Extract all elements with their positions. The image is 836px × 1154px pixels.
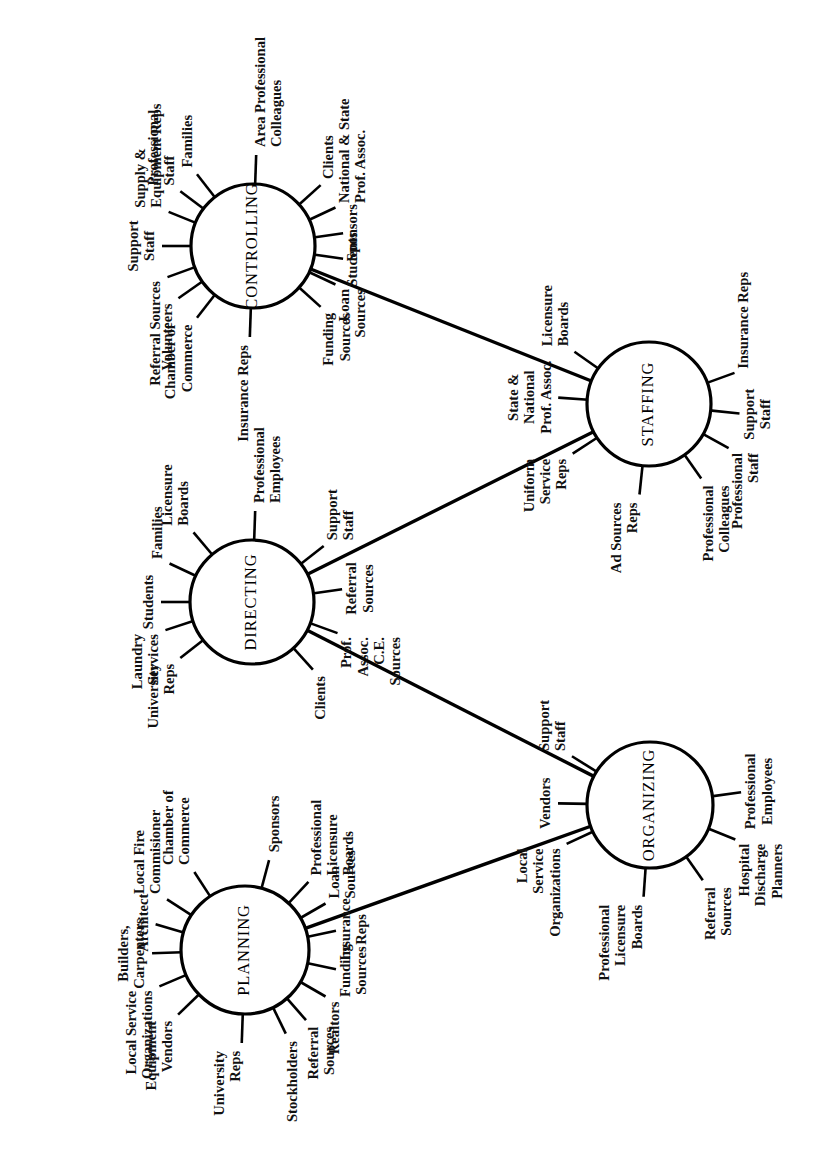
spoke-label-staffing-1: State &NationalProf. Assoc. [505, 361, 553, 434]
spoke-label-planning-9: Realtors [326, 1001, 342, 1054]
spoke-line-planning-8 [286, 998, 306, 1021]
spoke-label-controlling-3: SupportStaff [125, 220, 157, 271]
node-circle-layer [181, 184, 713, 1014]
spoke-label-staffing-4: ProfessionalColleagues [700, 485, 732, 561]
spoke-label-line: Reps [553, 459, 569, 490]
spoke-label-line: Professional [308, 800, 324, 876]
spoke-line-planning-14 [261, 860, 269, 889]
spoke-line-planning-11 [307, 931, 336, 937]
spoke-label-line: Planners [769, 843, 785, 898]
spoke-label-line: Commisioner [147, 809, 163, 894]
spoke-label-line: Sources [352, 289, 368, 338]
spoke-label-directing-9: ProfessionalEmployees [251, 427, 283, 503]
spoke-label-directing-4: UniversityReps [145, 663, 177, 729]
spoke-line-controlling-12 [308, 208, 335, 221]
spoke-label-line: Boards [555, 301, 571, 346]
spoke-label-line: Chamber of [162, 324, 178, 399]
spoke-label-line: Professional [596, 905, 612, 981]
node-label-organizing: ORGANIZING [639, 749, 658, 862]
spoke-line-controlling-5 [178, 281, 203, 298]
spoke-label-line: National [521, 370, 537, 424]
spoke-line-controlling-2 [169, 212, 197, 223]
spoke-line-directing-5 [293, 647, 313, 669]
spoke-label-planning-0: Chamber ofCommerce [160, 790, 192, 865]
spoke-label-directing-1: Families [149, 506, 165, 559]
spoke-label-line: Colleagues [268, 79, 284, 147]
spoke-label-line: Families [149, 506, 165, 559]
spoke-label-line: National & State [336, 98, 352, 203]
spoke-label-line: Boards [629, 904, 645, 949]
spoke-label-controlling-11: Sponsors [344, 204, 360, 261]
diagram-page: FamiliesProfessionalStaffSupply &Equipme… [0, 0, 836, 1154]
spoke-line-organizing-5 [707, 828, 735, 839]
spoke-label-line: Sponsors [344, 204, 360, 261]
spoke-label-line: Referral [305, 1027, 321, 1080]
spoke-line-controlling-11 [313, 233, 343, 237]
node-label-staffing: STAFFING [638, 362, 657, 447]
spoke-label-line: Laundry [129, 633, 145, 689]
spoke-label-line: University [211, 1050, 227, 1116]
spoke-label-staffing-0: LicensureBoards [539, 284, 571, 346]
spoke-label-line: Ad Sources [608, 502, 624, 573]
spoke-label-line: Service [537, 458, 553, 504]
spoke-label-line: Sources [387, 637, 403, 686]
spoke-label-line: Boards [175, 481, 191, 526]
spoke-label-controlling-14: Area ProfessionalColleagues [252, 37, 284, 147]
spoke-label-planning-6: UniversityReps [211, 1050, 243, 1116]
spoke-label-line: Staff [745, 453, 761, 483]
spoke-line-staffing-7 [706, 373, 734, 383]
spoke-label-directing-6: Prof.Assoc.C.E.Sources [338, 637, 403, 686]
spoke-line-organizing-1 [558, 803, 588, 804]
spoke-line-organizing-4 [686, 856, 703, 881]
spoke-label-organizing-1: Vendors [537, 777, 553, 829]
spoke-label-line: Prof. Assoc. [538, 361, 554, 434]
spoke-line-planning-5 [178, 994, 200, 1015]
spoke-label-line: Reps [353, 914, 369, 945]
spoke-label-line: Employees [267, 435, 283, 503]
spoke-label-line: Local [514, 848, 530, 883]
spoke-label-line: C.E. [371, 637, 387, 665]
spoke-label-line: Commerce [176, 797, 192, 865]
spoke-label-line: State & [505, 374, 521, 421]
spoke-label-line: Insurance Reps [235, 345, 251, 442]
spoke-line-directing-3 [165, 621, 194, 630]
spoke-label-line: Service [530, 848, 546, 894]
spoke-label-line: Boards [340, 831, 356, 876]
spoke-label-line: Builders, [115, 925, 131, 982]
spoke-label-controlling-0: Families [179, 115, 195, 168]
spoke-label-line: Discharge [752, 843, 768, 906]
spoke-line-planning-2 [156, 924, 185, 932]
spoke-line-directing-7 [312, 589, 342, 593]
spoke-line-staffing-1 [558, 398, 588, 400]
spoke-label-line: Vendors [159, 1020, 175, 1072]
spoke-label-planning-14: Sponsors [266, 795, 282, 852]
spoke-label-planning-5: EquipmentVendors [143, 1020, 175, 1090]
spoke-label-line: Sponsors [266, 795, 282, 852]
spoke-label-organizing-6: ProfessionalEmployees [742, 753, 774, 829]
spoke-label-line: Clients [320, 135, 336, 179]
spoke-label-line: Sources [353, 946, 369, 995]
spoke-line-directing-1 [170, 564, 197, 577]
spoke-label-staffing-2: UniformServiceReps [521, 458, 569, 512]
spoke-label-organizing-5: HospitalDischargePlanners [736, 843, 784, 906]
spoke-label-line: Insurance Reps [735, 272, 751, 369]
spoke-label-line: Licensure [612, 904, 628, 966]
spoke-label-controlling-13: Clients [320, 135, 336, 179]
spoke-label-line: Assoc. [355, 637, 371, 676]
spoke-label-line: Realtors [326, 1001, 342, 1054]
spoke-label-line: Sources [360, 564, 376, 613]
spoke-label-line: Support [324, 489, 340, 540]
spoke-line-planning-12 [300, 904, 326, 919]
spoke-line-planning-9 [300, 982, 326, 997]
spoke-label-line: Area Professional [252, 37, 268, 147]
spoke-label-staffing-6: SupportStaff [741, 388, 773, 439]
spoke-label-line: Equipment Reps [148, 103, 164, 208]
node-label-planning: PLANNING [234, 904, 253, 996]
spoke-label-line: Local Service [123, 990, 139, 1074]
spoke-label-staffing-5: ProfessionalStaff [729, 453, 761, 529]
spoke-label-line: Stockholders [284, 1041, 300, 1122]
spoke-line-directing-8 [300, 546, 324, 564]
spoke-label-line: Funding [320, 312, 336, 365]
spoke-label-organizing-2: LocalServiceOrganizations [514, 848, 562, 937]
spoke-label-line: Support [741, 388, 757, 439]
